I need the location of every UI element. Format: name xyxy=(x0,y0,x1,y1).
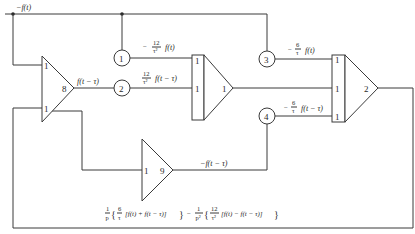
potentiometer-2: 2 xyxy=(114,80,130,96)
denominator: τ xyxy=(296,49,299,56)
pot2-label: 2 xyxy=(119,84,124,94)
pot4-label: 4 xyxy=(264,112,269,122)
amplifier-8: 1 1 8 xyxy=(42,56,74,122)
potentiometer-3: 3 xyxy=(259,51,275,67)
summer1-gain-2: 1 xyxy=(195,84,200,94)
amp9-label: 9 xyxy=(160,166,165,176)
amp8-gain-top: 1 xyxy=(44,61,49,71)
expr-brace-open: { xyxy=(204,209,209,220)
wire-top-bus xyxy=(5,14,267,51)
argument: f(t − τ) xyxy=(301,104,323,113)
output-expression: 1 p { 6 τ [f(t) + f(t − τ)] } − 1 p² { 1… xyxy=(105,205,279,221)
wire-amp8-to-amp9 xyxy=(52,111,142,170)
denominator: τ² xyxy=(153,47,158,54)
numerator: 12 xyxy=(143,70,150,77)
summer1-gain-1: 1 xyxy=(195,56,200,66)
numerator: 12 xyxy=(153,39,160,46)
pot1-label: 1 xyxy=(119,54,124,64)
analog-computer-diagram: −f(t) 1 1 8 f(t − τ) 1 2 3 4 − 12 τ² f(t… xyxy=(0,0,415,234)
coefficient-pot4: − 6 τ f(t − τ) xyxy=(284,99,323,114)
amp8-gain-bottom: 1 xyxy=(44,104,49,114)
amp8-label: 8 xyxy=(62,84,67,94)
numerator: 6 xyxy=(296,41,300,48)
expr-t3-num: 1 xyxy=(197,205,200,212)
expr-t3-den: p² xyxy=(196,214,201,221)
signal-amp8-output: f(t − τ) xyxy=(77,77,99,86)
argument: f(t − τ) xyxy=(155,74,177,83)
amplifier-triangle-icon xyxy=(204,55,233,120)
expr-t1-num: 1 xyxy=(106,205,109,212)
expr-brace-open: { xyxy=(111,209,116,220)
summer2-label: 2 xyxy=(364,84,369,94)
denominator: τ xyxy=(292,107,295,114)
signal-amp9-output: −f(t − τ) xyxy=(200,159,228,168)
summer1-label: 1 xyxy=(222,84,227,94)
pot3-label: 3 xyxy=(264,55,269,65)
sign: − xyxy=(143,43,147,51)
numerator: 6 xyxy=(292,99,296,106)
denominator: τ² xyxy=(143,78,148,85)
expr-brace-close: } xyxy=(179,209,184,220)
expr-t2-den: τ xyxy=(118,214,121,221)
amplifier-triangle-icon xyxy=(345,55,378,122)
summer-2: 1 1 1 2 xyxy=(332,55,378,122)
expr-t2-body: [f(t) + f(t − τ)] xyxy=(125,210,167,218)
sign: − xyxy=(288,46,292,54)
coefficient-pot3: − 6 τ f(t) xyxy=(288,41,315,56)
wires xyxy=(5,12,413,228)
summer2-gain-3: 1 xyxy=(335,112,340,122)
coefficient-pot2: 12 τ² f(t − τ) xyxy=(142,70,177,85)
expr-t1-den: p xyxy=(106,214,109,221)
summer2-gain-2: 1 xyxy=(335,84,340,94)
argument: f(t) xyxy=(165,43,175,52)
amplifier-9: 1 9 xyxy=(142,139,173,201)
sign: − xyxy=(284,104,288,112)
expr-t4-body: [f(t) − f(t − τ)] xyxy=(221,210,263,218)
expr-t2-num: 6 xyxy=(118,205,122,212)
summer-1: 1 1 1 xyxy=(192,55,233,120)
expr-t4-num: 12 xyxy=(211,205,218,212)
wire-bus-to-amp8 xyxy=(13,14,42,65)
amp9-gain: 1 xyxy=(144,166,149,176)
expr-t4-den: τ² xyxy=(212,214,217,221)
signal-top-input: −f(t) xyxy=(16,3,32,12)
coefficient-pot1: − 12 τ² f(t) xyxy=(143,39,175,54)
potentiometer-1: 1 xyxy=(114,50,130,66)
expr-brace-close: } xyxy=(274,209,279,220)
potentiometer-4: 4 xyxy=(259,108,275,124)
summer2-gain-1: 1 xyxy=(335,55,340,65)
argument: f(t) xyxy=(305,46,315,55)
expr-minus: − xyxy=(187,210,191,218)
